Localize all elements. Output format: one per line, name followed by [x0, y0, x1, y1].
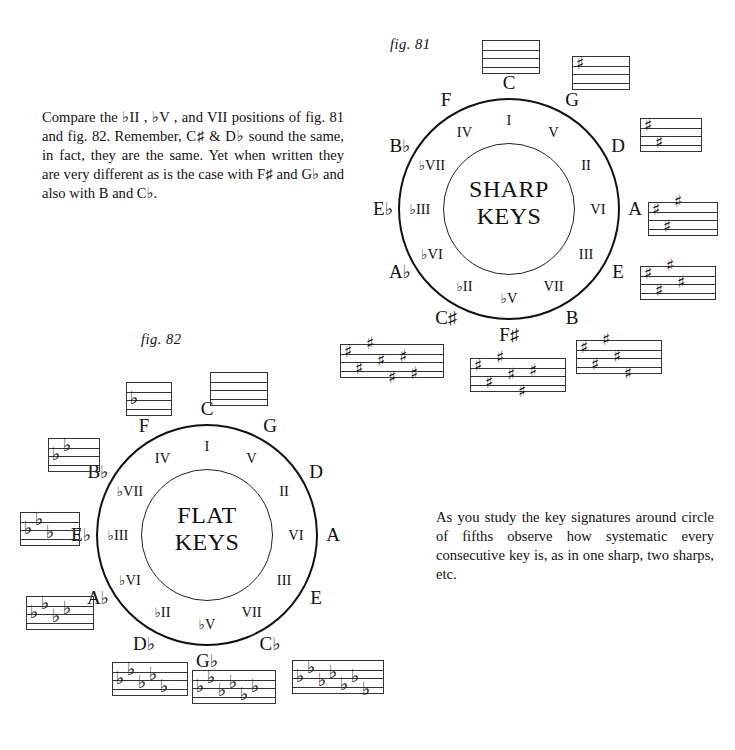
- sharp-icon: ♯: [591, 356, 599, 373]
- flat-icon: ♭: [63, 436, 72, 454]
- degree-label-III: III: [277, 571, 292, 588]
- key-label-Fsharp: F♯: [499, 324, 518, 346]
- degree-label-II: II: [581, 156, 591, 173]
- sharp-icon: ♯: [644, 265, 652, 282]
- sharp-icon: ♯: [655, 282, 663, 299]
- key-signature-staff-Fsharp: ♯♯♯♯♯♯: [470, 358, 566, 392]
- flat-icon: ♭: [138, 673, 147, 691]
- key-label-D: D: [309, 461, 323, 483]
- flat-icon: ♭: [127, 660, 136, 678]
- flat-icon: ♭: [340, 675, 349, 693]
- degree-label-flatV: ♭V: [199, 616, 216, 633]
- sharp-wheel-title: SHARP KEYS: [443, 176, 575, 230]
- key-label-A: A: [628, 198, 642, 220]
- key-label-B: B: [566, 307, 579, 329]
- sharp-icon: ♯: [529, 361, 537, 378]
- flat-icon: ♭: [251, 677, 260, 695]
- key-label-G: G: [565, 89, 579, 111]
- flat-icon: ♭: [218, 681, 227, 699]
- degree-label-VI: VI: [590, 201, 605, 218]
- key-label-D: D: [611, 135, 625, 157]
- flat-icon: ♭: [30, 603, 39, 621]
- degree-label-flatVI: ♭VI: [421, 245, 443, 262]
- key-signature-staff-B: ♯♯♯♯♯: [576, 340, 662, 374]
- degree-label-V: V: [548, 123, 558, 140]
- degree-label-flatV: ♭V: [501, 290, 518, 307]
- key-signature-staff-F: ♭: [126, 382, 172, 416]
- key-signature-staff-Aflat: ♭♭♭♭: [26, 596, 94, 630]
- sharp-icon: ♯: [388, 368, 396, 385]
- sharp-icon: ♯: [666, 256, 674, 273]
- key-label-F: F: [441, 89, 452, 111]
- flat-wheel-title: FLAT KEYS: [141, 502, 273, 556]
- flat-icon: ♭: [296, 667, 305, 685]
- sharp-icon: ♯: [355, 360, 363, 377]
- sharp-icon: ♯: [613, 347, 621, 364]
- key-signature-staff-Dflat: ♭♭♭♭♭: [112, 662, 188, 696]
- key-signature-staff-A: ♯♯♯: [648, 202, 718, 236]
- degree-label-IV: IV: [155, 449, 170, 466]
- sharp-icon: ♯: [602, 330, 610, 347]
- degree-label-flatII: ♭II: [457, 278, 473, 295]
- sharp-icon: ♯: [677, 273, 685, 290]
- sharp-icon: ♯: [377, 351, 385, 368]
- key-signature-staff-D: ♯♯: [640, 118, 702, 152]
- degree-label-flatVII: ♭VII: [419, 156, 445, 173]
- flat-icon: ♭: [130, 389, 139, 407]
- fig-82-caption: fig. 82: [141, 331, 182, 348]
- flat-icon: ♭: [160, 677, 169, 695]
- degree-label-V: V: [246, 449, 256, 466]
- flat-icon: ♭: [116, 669, 125, 687]
- degree-label-VII: VII: [241, 604, 261, 621]
- sharp-icon: ♯: [366, 334, 374, 351]
- sharp-icon: ♯: [410, 364, 418, 381]
- key-label-Csharp: C♯: [435, 307, 456, 329]
- flat-icon: ♭: [24, 519, 33, 537]
- flat-icon: ♭: [149, 665, 158, 683]
- sharp-icon: ♯: [496, 348, 504, 365]
- key-label-A: A: [326, 524, 340, 546]
- flat-icon: ♭: [229, 673, 238, 691]
- flat-keys-wheel: FLAT KEYS CGDAEC♭G♭D♭A♭E♭B♭F IVIIVIIIIVI…: [96, 424, 318, 646]
- study-paragraph: As you study the key signatures around c…: [436, 508, 714, 584]
- sharp-icon: ♯: [674, 192, 682, 209]
- degree-label-flatVI: ♭VI: [119, 571, 141, 588]
- degree-label-flatII: ♭II: [155, 604, 171, 621]
- key-label-E: E: [310, 587, 322, 609]
- key-signature-staff-Bflat: ♭♭: [48, 438, 100, 472]
- flat-icon: ♭: [52, 607, 61, 625]
- key-signature-staff-Csharp: ♯♯♯♯♯♯♯: [340, 344, 444, 378]
- staff-lines: [210, 372, 268, 406]
- degree-label-I: I: [205, 438, 210, 455]
- flat-icon: ♭: [351, 667, 360, 685]
- flat-icon: ♭: [362, 680, 371, 698]
- key-label-Cflat: C♭: [260, 633, 281, 655]
- key-signature-staff-Eflat: ♭♭♭: [20, 512, 80, 546]
- staff-lines: [482, 40, 540, 74]
- flat-icon: ♭: [329, 663, 338, 681]
- sharp-icon: ♯: [624, 364, 632, 381]
- degree-label-II: II: [279, 482, 289, 499]
- flat-icon: ♭: [207, 668, 216, 686]
- flat-icon: ♭: [63, 599, 72, 617]
- flat-icon: ♭: [307, 658, 316, 676]
- flat-icon: ♭: [41, 594, 50, 612]
- flat-icon: ♭: [196, 677, 205, 695]
- sharp-icon: ♯: [663, 218, 671, 235]
- sharp-icon: ♯: [518, 382, 526, 399]
- sharp-icon: ♯: [580, 339, 588, 356]
- sharp-icon: ♯: [655, 134, 663, 151]
- intro-paragraph: Compare the ♭II , ♭V , and VII positions…: [42, 108, 344, 203]
- degree-label-flatIII: ♭III: [410, 201, 431, 218]
- key-signature-staff-G: ♯: [572, 56, 630, 90]
- sharp-icon: ♯: [576, 55, 584, 72]
- sharp-keys-wheel: SHARP KEYS CGDAEBF♯C♯A♭E♭B♭F IVIIVIIIIVI…: [398, 98, 620, 320]
- flat-icon: ♭: [240, 685, 249, 703]
- key-label-Aflat: A♭: [389, 261, 411, 283]
- key-label-Eflat: E♭: [373, 198, 393, 220]
- key-label-F: F: [139, 415, 150, 437]
- degree-label-VII: VII: [543, 278, 563, 295]
- key-label-C: C: [503, 72, 516, 94]
- sharp-icon: ♯: [652, 201, 660, 218]
- degree-label-VI: VI: [288, 527, 303, 544]
